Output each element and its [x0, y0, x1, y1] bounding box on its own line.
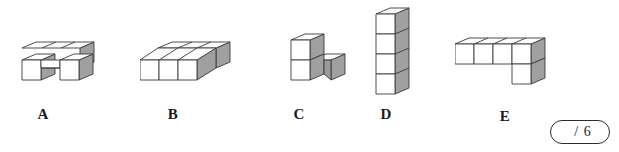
worksheet-canvas: A B — [0, 0, 619, 152]
shape-label-e: E — [490, 108, 520, 124]
shape-label-d: D — [371, 106, 401, 122]
shape-label-b: B — [158, 106, 188, 122]
cube-shape-c: C — [276, 28, 356, 100]
shape-label-c: C — [284, 106, 314, 122]
shape-label-a: A — [28, 106, 58, 122]
cube-shape-c-drawing — [276, 28, 356, 100]
cube-shape-e: E — [455, 32, 565, 102]
cube-shape-b: B — [140, 40, 240, 98]
cube-shape-e-drawing — [455, 32, 565, 102]
cube-shape-a: A — [8, 40, 108, 98]
score-box[interactable]: / 6 — [550, 120, 610, 144]
cube-shape-a-drawing — [8, 40, 108, 98]
cube-shape-b-drawing — [140, 40, 240, 98]
cube-shape-d-drawing — [368, 2, 428, 102]
score-text: / 6 — [551, 121, 609, 143]
cube-shape-d: D — [368, 2, 428, 102]
